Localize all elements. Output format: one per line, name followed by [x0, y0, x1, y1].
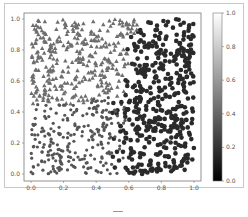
dot-marker	[116, 114, 119, 117]
circle-marker	[182, 168, 187, 173]
circle-marker	[158, 108, 163, 113]
circle-marker	[139, 49, 144, 54]
dot-marker	[78, 158, 81, 161]
dot-marker	[57, 103, 60, 106]
dot-marker	[66, 132, 69, 135]
circle-marker	[135, 102, 140, 107]
circle-marker	[189, 121, 194, 126]
dot-marker	[104, 162, 107, 165]
circle-marker	[159, 129, 164, 134]
dot-marker	[86, 161, 89, 164]
dot-marker	[68, 150, 71, 153]
circle-marker	[168, 140, 173, 145]
dot-marker	[37, 163, 40, 166]
circle-marker	[176, 18, 181, 23]
dot-marker	[66, 146, 69, 149]
dot-marker	[57, 148, 60, 151]
circle-marker	[169, 135, 174, 140]
circle-marker	[174, 32, 179, 37]
circle-marker	[152, 137, 157, 142]
dot-marker	[84, 171, 87, 174]
circle-marker	[175, 105, 180, 110]
dot-marker	[95, 111, 98, 114]
dot-marker	[60, 149, 63, 152]
circle-marker	[179, 45, 184, 50]
circle-marker	[190, 106, 195, 111]
circle-marker	[152, 120, 157, 125]
circle-marker	[189, 42, 194, 47]
dot-marker	[109, 172, 112, 175]
dot-marker	[72, 140, 75, 143]
dot-marker	[67, 160, 70, 163]
dot-marker	[54, 159, 57, 162]
dot-marker	[47, 150, 50, 153]
circle-marker	[147, 118, 152, 123]
circle-marker	[131, 165, 136, 170]
dot-marker	[61, 118, 64, 121]
circle-marker	[163, 76, 168, 81]
circle-marker	[173, 146, 178, 151]
circle-marker	[135, 56, 140, 61]
dot-marker	[82, 165, 85, 168]
dot-marker	[69, 108, 72, 111]
dot-marker	[49, 127, 52, 130]
circle-marker	[133, 48, 138, 53]
dot-marker	[36, 103, 39, 106]
circle-marker	[125, 79, 130, 84]
dot-marker	[33, 133, 36, 136]
circle-marker	[169, 169, 174, 174]
dot-marker	[76, 155, 79, 158]
circle-marker	[162, 117, 167, 122]
circle-marker	[180, 160, 185, 165]
dot-marker	[56, 143, 59, 146]
circle-marker	[156, 162, 161, 167]
circle-marker	[163, 93, 168, 98]
circle-marker	[172, 93, 177, 98]
circle-marker	[185, 75, 190, 80]
circle-marker	[130, 157, 135, 162]
dot-marker	[83, 125, 86, 128]
dot-marker	[38, 141, 41, 144]
circle-marker	[118, 124, 123, 129]
circle-marker	[147, 41, 152, 46]
x-tick-label: 0.8	[157, 184, 167, 191]
circle-marker	[176, 81, 181, 86]
dot-marker	[105, 123, 108, 126]
caption-dash	[113, 211, 123, 212]
dot-marker	[108, 152, 111, 155]
circle-marker	[137, 70, 142, 75]
circle-marker	[111, 154, 116, 159]
circle-marker	[192, 146, 197, 151]
dot-marker	[102, 164, 105, 167]
dot-marker	[43, 134, 46, 137]
circle-marker	[181, 126, 186, 131]
dot-marker	[34, 117, 37, 120]
dot-marker	[48, 133, 51, 136]
dot-marker	[110, 122, 113, 125]
dot-marker	[103, 99, 106, 102]
dot-marker	[101, 146, 104, 149]
dot-marker	[121, 156, 124, 159]
dot-marker	[102, 122, 105, 125]
circle-marker	[174, 135, 179, 140]
x-tick-label: 0.2	[59, 184, 69, 191]
circle-marker	[148, 98, 153, 103]
dot-marker	[105, 108, 108, 111]
circle-marker	[161, 42, 166, 47]
circle-marker	[164, 23, 169, 28]
dot-marker	[115, 172, 118, 175]
dot-marker	[43, 143, 46, 146]
dot-marker	[107, 117, 110, 120]
dot-marker	[86, 167, 89, 170]
dot-marker	[73, 124, 76, 127]
dot-marker	[56, 152, 59, 155]
dot-marker	[30, 133, 33, 136]
circle-marker	[129, 146, 134, 151]
circle-marker	[140, 172, 145, 177]
circle-marker	[186, 64, 191, 69]
circle-marker	[162, 140, 167, 145]
dot-marker	[43, 160, 46, 163]
circle-marker	[178, 22, 183, 27]
dot-marker	[32, 124, 35, 127]
circle-marker	[171, 25, 176, 30]
